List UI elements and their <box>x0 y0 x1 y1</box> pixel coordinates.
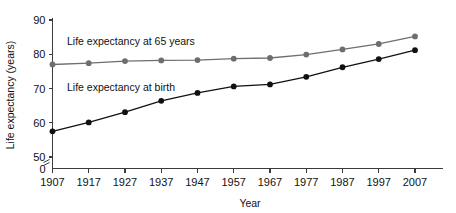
series-label: Life expectancy at 65 years <box>67 35 195 47</box>
y-axis-tick-labels: 05060708090 <box>33 14 45 175</box>
data-point <box>231 84 237 90</box>
data-point <box>303 74 309 80</box>
y-axis-title: Life expectancy (years) <box>4 41 16 150</box>
x-tick-label: 2007 <box>403 176 427 188</box>
y-tick-label: 90 <box>33 14 45 26</box>
data-point <box>122 58 128 64</box>
x-tick-label: 1987 <box>330 176 354 188</box>
data-point <box>412 47 418 53</box>
x-tick-label: 1967 <box>258 176 282 188</box>
y-tick-label: 80 <box>33 48 45 60</box>
data-point <box>267 81 273 87</box>
x-tick-label: 1957 <box>222 176 246 188</box>
data-point <box>376 41 382 47</box>
line-chart: 05060708090 1907191719271937194719571967… <box>0 0 456 213</box>
data-point <box>50 128 56 134</box>
data-point <box>50 62 56 68</box>
data-point <box>303 52 309 58</box>
x-tick-label: 1947 <box>185 176 209 188</box>
y-tick-label: 60 <box>33 117 45 129</box>
y-tick-label: 50 <box>33 151 45 163</box>
data-point <box>267 55 273 61</box>
x-tick-label: 1907 <box>40 176 64 188</box>
data-point <box>158 58 164 64</box>
data-point <box>231 56 237 62</box>
data-point <box>158 98 164 104</box>
series-label: Life expectancy at birth <box>67 81 175 93</box>
data-point <box>340 64 346 70</box>
x-tick-label: 1977 <box>294 176 318 188</box>
x-axis-title: Year <box>239 197 261 209</box>
data-point <box>195 90 201 96</box>
x-tick-label: 1917 <box>77 176 101 188</box>
x-tick-label: 1937 <box>149 176 173 188</box>
chart-figure: 05060708090 1907191719271937194719571967… <box>0 0 456 213</box>
data-point <box>86 120 92 126</box>
x-tick-label: 1927 <box>113 176 137 188</box>
data-point <box>195 57 201 63</box>
y-tick-label: 70 <box>33 83 45 95</box>
x-axis-tick-labels: 1907191719271937194719571967197719871997… <box>40 176 427 188</box>
data-point <box>122 109 128 115</box>
data-point <box>340 47 346 53</box>
data-point <box>86 60 92 66</box>
x-tick-label: 1997 <box>367 176 391 188</box>
y-tick-label: 0 <box>39 163 45 175</box>
data-point <box>412 34 418 40</box>
data-point <box>376 56 382 62</box>
